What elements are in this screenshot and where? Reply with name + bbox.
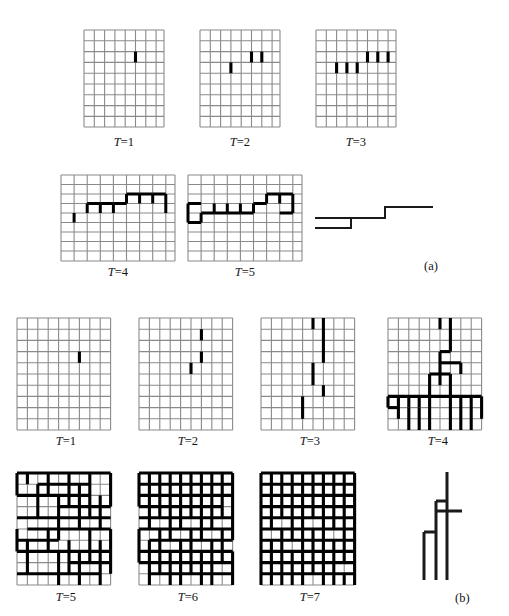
- lattice-a-t1: [81, 27, 167, 130]
- lattice-b-t6: [136, 470, 240, 588]
- label-b-t5: T=5: [14, 590, 118, 605]
- label-b-t3: T=3: [258, 434, 362, 449]
- lattice-b-t2-svg: [136, 315, 240, 433]
- lattice-a-t5-svg: [185, 172, 305, 264]
- lattice-a-t2-svg: [197, 27, 283, 130]
- lattice-a-t1-svg: [81, 27, 167, 130]
- lattice-b-t5: [14, 470, 118, 588]
- lattice-a-t3-svg: [313, 27, 399, 130]
- label-b-t2: T=2: [136, 434, 240, 449]
- lattice-b-t7-svg: [258, 470, 362, 588]
- lattice-b-t2: [136, 315, 240, 433]
- lattice-b-t3: [258, 315, 362, 433]
- label-a-t1: T=1: [81, 135, 167, 150]
- lattice-b-t6-svg: [136, 470, 240, 588]
- lattice-a-t4-svg: [58, 172, 178, 264]
- lattice-b-t7: [258, 470, 362, 588]
- label-b-t4: T=4: [380, 434, 496, 449]
- lattice-a-t3: [313, 27, 399, 130]
- lattice-a-t5: [185, 172, 305, 264]
- label-a-t3: T=3: [313, 135, 399, 150]
- label-b-t1: T=1: [14, 434, 118, 449]
- lattice-a-t2: [197, 27, 283, 130]
- label-a-t5: T=5: [185, 265, 305, 280]
- result-curve-b: [396, 470, 486, 594]
- lattice-a-t4: [58, 172, 178, 264]
- lattice-b-t3-svg: [258, 315, 362, 433]
- label-b-t6: T=6: [136, 590, 240, 605]
- label-a-t2: T=2: [197, 135, 283, 150]
- label-a-t4: T=4: [58, 265, 178, 280]
- lattice-b-t1: [14, 315, 118, 433]
- lattice-b-t4-svg: [380, 315, 496, 433]
- label-b-t7: T=7: [258, 590, 362, 605]
- result-curve-a: [313, 190, 453, 244]
- result-curve-a-svg: [313, 190, 453, 240]
- lattice-b-t4: [380, 315, 496, 433]
- lattice-b-t5-svg: [14, 470, 118, 588]
- panel-letter-b: (b): [455, 591, 470, 606]
- lattice-b-t1-svg: [14, 315, 118, 433]
- panel-letter-a: (a): [424, 259, 438, 274]
- result-curve-b-svg: [396, 470, 486, 590]
